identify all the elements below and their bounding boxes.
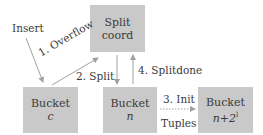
bucket-n2l-line2: n+2l (213, 109, 239, 125)
bucket-n2l-line1: Bucket (206, 96, 245, 109)
bucket-n2l-sup: l (236, 111, 238, 119)
bucket-c-line2: c (47, 110, 53, 123)
insert-label: Insert (12, 22, 44, 34)
bucket-c-line1: Bucket (31, 97, 70, 110)
tuples-label: Tuples (161, 117, 196, 129)
bucket-n-node: Bucket n (103, 87, 157, 133)
split-coord-line1: Split (104, 16, 130, 29)
bucket-n2l-node: Bucket n+2l (198, 87, 253, 133)
bucket-n2l-base: n+2 (213, 111, 236, 124)
split-coord-node: Split coord (90, 5, 145, 52)
init-label: 3. Init (163, 93, 195, 105)
bucket-n-line1: Bucket (111, 97, 150, 110)
split-label: 2. Split (76, 70, 114, 82)
splitdone-label: 4. Splitdone (138, 64, 202, 76)
split-coord-line2: coord (102, 29, 134, 42)
bucket-c-node: Bucket c (23, 87, 78, 133)
bucket-n-line2: n (126, 110, 133, 123)
